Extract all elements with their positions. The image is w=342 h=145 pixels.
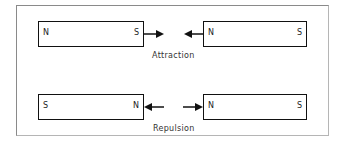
- attraction-caption: Attraction: [152, 51, 195, 60]
- north-pole-label: N: [133, 101, 139, 110]
- south-pole-label: S: [297, 101, 302, 110]
- repulsion-left-magnet: S N: [38, 94, 144, 120]
- north-pole-label: N: [208, 28, 214, 37]
- south-pole-label: S: [134, 28, 139, 37]
- arrow-right-icon: [183, 102, 203, 112]
- north-pole-label: N: [208, 101, 214, 110]
- south-pole-label: S: [297, 28, 302, 37]
- arrow-left-icon: [144, 102, 164, 112]
- attraction-left-magnet: N S: [38, 21, 144, 47]
- repulsion-caption: Repulsion: [153, 124, 195, 133]
- north-pole-label: N: [43, 28, 49, 37]
- repulsion-right-magnet: N S: [203, 94, 307, 120]
- arrow-right-icon: [144, 29, 164, 39]
- attraction-right-magnet: N S: [203, 21, 307, 47]
- south-pole-label: S: [43, 101, 48, 110]
- arrow-left-icon: [184, 29, 204, 39]
